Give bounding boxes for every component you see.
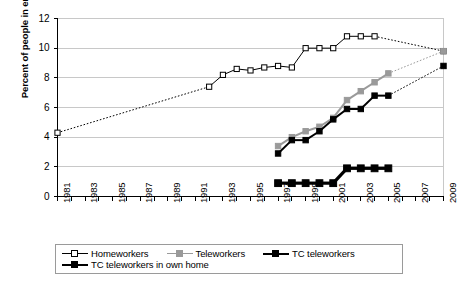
legend-marker-icon bbox=[167, 248, 193, 259]
legend-item-4[interactable]: TC teleworkers in own home bbox=[62, 259, 209, 270]
series-marker-2 bbox=[441, 48, 446, 53]
series-marker-4 bbox=[316, 180, 323, 187]
legend-item-3[interactable]: TC teleworkers bbox=[263, 248, 354, 259]
series-marker-4 bbox=[371, 165, 378, 172]
series-marker-2 bbox=[275, 143, 280, 148]
series-marker-1 bbox=[275, 63, 280, 68]
chart-container: Percent of people in employment 12108642… bbox=[0, 0, 461, 291]
legend-label: TC teleworkers bbox=[292, 248, 354, 259]
series-marker-1 bbox=[55, 130, 60, 135]
series-marker-4 bbox=[344, 165, 351, 172]
series-marker-1 bbox=[358, 34, 363, 39]
series-marker-4 bbox=[288, 180, 295, 187]
series-marker-2 bbox=[344, 97, 349, 102]
legend-label: TC teleworkers in own home bbox=[91, 259, 209, 270]
series-marker-2 bbox=[303, 129, 308, 134]
legend-marker-icon bbox=[62, 259, 88, 270]
series-marker-4 bbox=[275, 180, 282, 187]
series-marker-1 bbox=[331, 46, 336, 51]
series-marker-1 bbox=[372, 34, 377, 39]
series-marker-3 bbox=[303, 137, 308, 142]
series-line-1 bbox=[375, 36, 444, 51]
series-marker-1 bbox=[289, 65, 294, 70]
series-line-1 bbox=[58, 87, 210, 133]
series-marker-3 bbox=[386, 93, 391, 98]
series-marker-1 bbox=[317, 46, 322, 51]
series-marker-3 bbox=[344, 106, 349, 111]
legend-row-primary: HomeworkersTeleworkersTC teleworkers bbox=[62, 248, 398, 259]
series-marker-3 bbox=[441, 63, 446, 68]
legend-item-2[interactable]: Teleworkers bbox=[167, 248, 246, 259]
series-marker-1 bbox=[220, 72, 225, 77]
series-marker-3 bbox=[317, 129, 322, 134]
series-marker-4 bbox=[302, 180, 309, 187]
series-marker-2 bbox=[372, 80, 377, 85]
series-line-2 bbox=[388, 51, 443, 73]
series-marker-3 bbox=[372, 93, 377, 98]
series-marker-1 bbox=[303, 46, 308, 51]
chart-legend: HomeworkersTeleworkersTC teleworkers TC … bbox=[55, 244, 403, 274]
series-marker-2 bbox=[386, 71, 391, 76]
series-marker-4 bbox=[357, 165, 364, 172]
series-marker-4 bbox=[330, 180, 337, 187]
legend-item-1[interactable]: Homeworkers bbox=[62, 248, 149, 259]
series-marker-3 bbox=[331, 117, 336, 122]
series-marker-1 bbox=[207, 84, 212, 89]
series-line-3 bbox=[388, 66, 443, 96]
legend-row-secondary: TC teleworkers in own home bbox=[62, 259, 398, 270]
series-marker-1 bbox=[234, 66, 239, 71]
series-marker-4 bbox=[385, 165, 392, 172]
series-marker-3 bbox=[275, 151, 280, 156]
series-marker-3 bbox=[289, 137, 294, 142]
series-marker-3 bbox=[358, 106, 363, 111]
series-marker-1 bbox=[344, 34, 349, 39]
series-marker-1 bbox=[248, 68, 253, 73]
series-marker-1 bbox=[262, 65, 267, 70]
legend-marker-icon bbox=[62, 248, 88, 259]
legend-marker-icon bbox=[263, 248, 289, 259]
legend-label: Homeworkers bbox=[91, 248, 149, 259]
legend-label: Teleworkers bbox=[196, 248, 246, 259]
series-marker-2 bbox=[358, 88, 363, 93]
